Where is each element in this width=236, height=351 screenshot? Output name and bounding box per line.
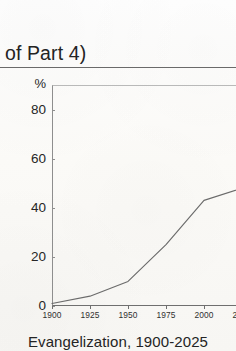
- scanned-page: t of Part 4) % 020406080 190019251950197…: [0, 0, 236, 351]
- y-axis-tick-label: 80: [4, 103, 46, 117]
- x-axis-tick-mark: [52, 306, 53, 309]
- y-axis-unit-label: %: [4, 77, 46, 91]
- x-axis-tick-label: 1950: [108, 310, 148, 320]
- x-axis-tick-mark: [166, 306, 167, 309]
- x-axis-tick-label: 1925: [70, 310, 110, 320]
- y-axis-tick-label: 60: [4, 152, 46, 166]
- header-rule: [0, 67, 236, 68]
- y-axis-tick-label: 40: [4, 201, 46, 215]
- line-chart: % 020406080 190019251950197520002025: [0, 74, 236, 351]
- x-axis-tick-mark: [90, 306, 91, 309]
- y-axis-tick-label: 20: [4, 250, 46, 264]
- figure-caption-text: Evangelization, 1900-2025: [0, 332, 236, 351]
- running-head-text: t of Part 4): [0, 40, 86, 66]
- x-axis-tick-mark: [128, 306, 129, 309]
- x-axis-tick-label: 1900: [32, 310, 72, 320]
- figure-caption: Evangelization, 1900-2025: [0, 332, 236, 351]
- x-axis-tick-mark: [204, 306, 205, 309]
- x-axis-tick-label: 1975: [146, 310, 186, 320]
- x-axis-tick-label: 2000: [184, 310, 224, 320]
- x-axis-tick-label: 2025: [222, 310, 236, 320]
- data-curve-path: [52, 188, 236, 303]
- data-curve: [52, 85, 236, 306]
- running-head: t of Part 4): [0, 40, 236, 66]
